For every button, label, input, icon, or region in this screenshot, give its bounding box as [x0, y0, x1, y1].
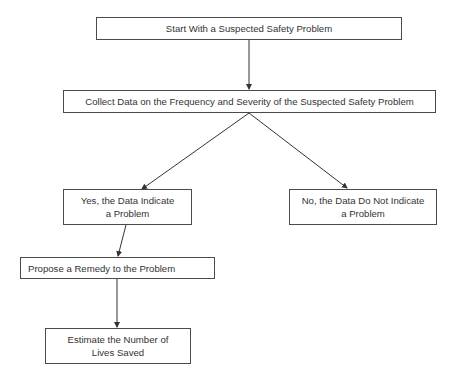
node-collect-data: Collect Data on the Frequency and Severi…: [63, 90, 436, 113]
node-estimate-lives-line2: Lives Saved: [92, 346, 144, 359]
node-propose-remedy: Propose a Remedy to the Problem: [20, 257, 215, 279]
node-no-problem-line2: a Problem: [341, 207, 385, 220]
node-estimate-lives: Estimate the Number of Lives Saved: [45, 328, 191, 364]
node-propose-remedy-label: Propose a Remedy to the Problem: [28, 262, 175, 275]
node-estimate-lives-line1: Estimate the Number of: [68, 333, 169, 346]
arrow-collect-to-yes: [142, 113, 249, 189]
node-start: Start With a Suspected Safety Problem: [96, 17, 402, 40]
node-yes-problem-line2: a Problem: [106, 207, 150, 220]
node-yes-problem: Yes, the Data Indicate a Problem: [63, 189, 192, 225]
node-no-problem-line1: No, the Data Do Not Indicate: [302, 194, 425, 207]
node-collect-data-label: Collect Data on the Frequency and Severi…: [85, 95, 414, 108]
node-yes-problem-line1: Yes, the Data Indicate: [81, 194, 175, 207]
arrow-yes-to-propose: [118, 225, 126, 256]
node-no-problem: No, the Data Do Not Indicate a Problem: [289, 189, 437, 225]
arrow-collect-to-no: [249, 113, 347, 188]
node-start-label: Start With a Suspected Safety Problem: [166, 22, 332, 35]
